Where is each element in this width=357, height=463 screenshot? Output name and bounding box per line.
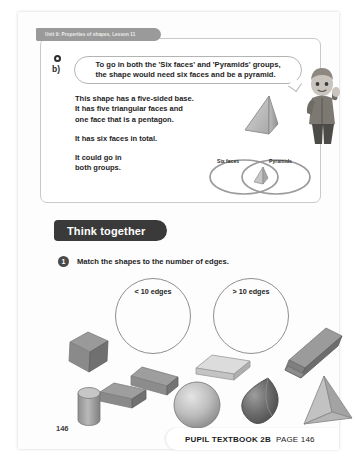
textbook-page-sheet: Unit 9: Properties of shapes, Lesson 11 … bbox=[18, 12, 339, 449]
page-number: 146 bbox=[56, 424, 69, 433]
shape-tetrahedron[interactable] bbox=[298, 372, 357, 432]
explanation-text-block: This shape has a five-sided base. It has… bbox=[75, 94, 225, 173]
pupil-character-illustration bbox=[299, 64, 343, 146]
unit-lesson-tab: Unit 9: Properties of shapes, Lesson 11 bbox=[36, 28, 161, 41]
part-label: b) bbox=[52, 64, 60, 74]
explanation-paragraph: It could go in both groups. bbox=[75, 153, 225, 174]
part-bullet-icon bbox=[54, 55, 61, 62]
speech-bubble: To go in both the 'Six faces' and 'Pyram… bbox=[74, 56, 302, 84]
speech-bubble-text: To go in both the 'Six faces' and 'Pyram… bbox=[84, 60, 291, 81]
footer-book-title: PUPIL TEXTBOOK 2B bbox=[185, 435, 271, 444]
venn-label-pyramids: Pyramids bbox=[269, 158, 292, 164]
shape-sphere[interactable] bbox=[170, 378, 226, 434]
sort-circle-label-right: > 10 edges bbox=[213, 287, 289, 296]
shape-cube[interactable] bbox=[66, 328, 112, 376]
venn-label-six-faces: Six faces bbox=[217, 158, 239, 164]
shape-cylinder[interactable] bbox=[70, 382, 108, 432]
footer-page-label: PAGE 146 bbox=[276, 435, 315, 444]
venn-diagram: Six faces Pyramids bbox=[206, 152, 314, 198]
think-together-banner: Think together bbox=[54, 220, 167, 241]
sort-circle-label-left: < 10 edges bbox=[115, 287, 191, 296]
shape-bank bbox=[40, 322, 352, 432]
question-number-badge: 1 bbox=[58, 256, 69, 267]
explanation-paragraph: This shape has a five-sided base. It has… bbox=[75, 94, 225, 125]
footer-bar: PUPIL TEXTBOOK 2B PAGE 146 bbox=[166, 428, 339, 450]
explanation-paragraph: It has six faces in total. bbox=[75, 134, 225, 144]
shape-cone[interactable] bbox=[236, 374, 290, 432]
question-text: Match the shapes to the number of edges. bbox=[77, 257, 229, 266]
pentagon-pyramid-icon bbox=[239, 94, 283, 140]
